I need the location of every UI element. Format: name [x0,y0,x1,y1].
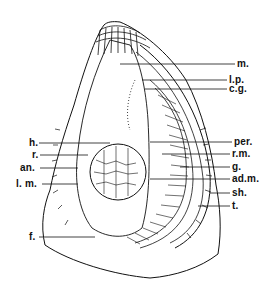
adductor-muscle [90,144,146,200]
label-t: t. [232,201,239,211]
visceral-mass [77,40,150,236]
label-h: h. [29,138,38,148]
label-an: an. [20,163,35,173]
tentacles [52,128,212,238]
gills [127,95,189,244]
label-sh: sh. [232,188,247,198]
label-r: r. [32,150,39,160]
mantle-lines [135,45,210,248]
label-f: f. [29,232,36,242]
muscle-texture [94,146,138,198]
label-per: per. [234,137,253,147]
label-m: m. [237,59,249,69]
label-rm: r.m. [232,149,251,159]
dotted-region [128,80,135,130]
label-adm: ad.m. [232,174,259,184]
label-g: g. [232,162,241,172]
label-lm: l. m. [16,179,37,189]
label-cg: c.g. [229,84,247,94]
